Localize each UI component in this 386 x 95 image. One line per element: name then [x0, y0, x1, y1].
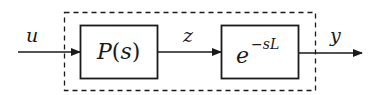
delay-block [222, 26, 299, 79]
delay-block-exponent: −sL [251, 36, 279, 52]
diagram-svg: u z y P(s) e −sL [0, 0, 386, 95]
plant-label-paren-close: ) [132, 39, 141, 64]
signal-label-u: u [26, 24, 38, 46]
plant-label-paren-open: ( [112, 39, 121, 64]
plant-label-s: s [120, 39, 131, 64]
block-diagram: u z y P(s) e −sL [0, 0, 386, 95]
delay-block-label: e [236, 43, 249, 68]
plant-block-label: P(s) [96, 39, 140, 64]
signal-label-y: y [329, 24, 341, 46]
delay-label-base: e [236, 43, 249, 68]
plant-label-P: P [96, 39, 113, 64]
signal-label-z: z [182, 24, 194, 46]
